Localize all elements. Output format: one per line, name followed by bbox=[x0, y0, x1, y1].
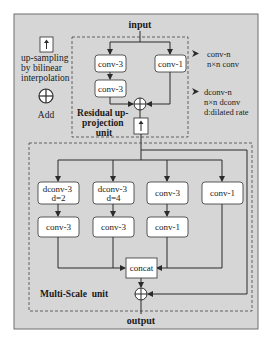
legend-upsample-text: up-sampling by bilinear interpolation bbox=[21, 53, 71, 83]
diagram: input conv-3 conv-1 conv-3 Residual up- … bbox=[0, 0, 272, 341]
ms-dconv3-d4-box: dconv-3 d=4 bbox=[93, 182, 134, 204]
residual-conv1-box: conv-1 bbox=[155, 55, 186, 72]
residual-conv3-box-1: conv-3 bbox=[95, 55, 126, 72]
svg-text:conv-3: conv-3 bbox=[101, 222, 126, 232]
legend-add-label: Add bbox=[38, 110, 55, 120]
upsample-icon bbox=[134, 118, 148, 134]
ms-conv3-box-b: conv-3 bbox=[93, 217, 134, 237]
multiscale-unit-label: Multi-Scale unit bbox=[40, 289, 109, 299]
svg-text:conv-1: conv-1 bbox=[158, 59, 183, 69]
output-label: output bbox=[127, 315, 156, 326]
svg-text:conv-3: conv-3 bbox=[98, 59, 123, 69]
legend-upsample-icon bbox=[40, 37, 53, 52]
residual-add-icon bbox=[134, 98, 146, 110]
concat-box: concat bbox=[126, 258, 157, 278]
input-label: input bbox=[129, 19, 152, 30]
svg-text:conv-3: conv-3 bbox=[98, 84, 123, 94]
svg-text:conv-1: conv-1 bbox=[210, 188, 235, 198]
multiscale-add-icon bbox=[135, 288, 147, 300]
svg-text:conv-3: conv-3 bbox=[46, 222, 71, 232]
ms-conv1-box-c: conv-1 bbox=[147, 217, 188, 237]
ms-conv1-box: conv-1 bbox=[202, 182, 243, 204]
legend-add-icon bbox=[39, 89, 53, 103]
ms-dconv3-d2-box: dconv-3 d=2 bbox=[38, 182, 79, 204]
residual-conv3-box-2: conv-3 bbox=[95, 80, 126, 97]
ms-conv3-box-a: conv-3 bbox=[38, 217, 79, 237]
svg-text:concat: concat bbox=[130, 263, 154, 273]
ms-conv3-box: conv-3 bbox=[147, 182, 188, 204]
svg-text:conv-3: conv-3 bbox=[155, 188, 180, 198]
svg-text:conv-1: conv-1 bbox=[155, 222, 180, 232]
